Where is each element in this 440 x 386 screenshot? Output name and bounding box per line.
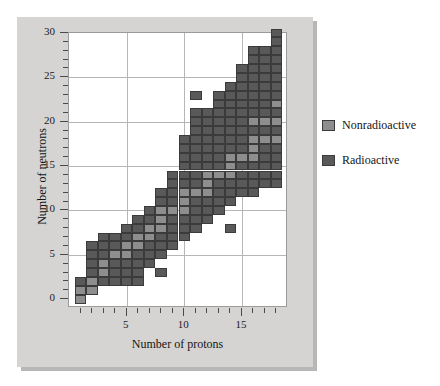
nuclide-cell (248, 144, 260, 153)
nuclide-cell (179, 206, 191, 215)
nuclide-cell (271, 37, 283, 46)
nuclide-cell (213, 126, 225, 135)
nuclide-cell (271, 64, 283, 73)
x-axis-minor-tick (229, 308, 230, 313)
nuclide-cell (236, 82, 248, 91)
y-axis-minor-tick (63, 183, 68, 184)
nuclide-cell (190, 179, 202, 188)
y-axis-minor-tick (63, 94, 68, 95)
nuclide-cell (144, 241, 156, 250)
nuclide-cell (202, 215, 214, 224)
nuclide-cell (121, 233, 133, 242)
nuclide-cell (202, 135, 214, 144)
x-axis-tick-label: 10 (172, 319, 194, 330)
nuclide-cell (109, 268, 121, 277)
y-axis-minor-tick (63, 103, 68, 104)
nuclide-cell (179, 215, 191, 224)
nuclide-cell (155, 206, 167, 215)
nuclide-cell (236, 64, 248, 73)
nuclide-cell (75, 277, 87, 286)
nuclide-cell (271, 55, 283, 64)
nuclide-cell (236, 108, 248, 117)
nuclide-cell (259, 153, 271, 162)
nuclide-cell (213, 144, 225, 153)
nuclide-cell (259, 82, 271, 91)
nuclide-cell (167, 215, 179, 224)
nuclide-cell (179, 188, 191, 197)
nuclide-cell (259, 73, 271, 82)
nuclide-cell (225, 179, 237, 188)
nuclide-cell (86, 268, 98, 277)
nuclide-cell (259, 46, 271, 55)
x-axis-major-tick (126, 308, 127, 316)
nuclide-cell (190, 91, 202, 100)
nuclide-cell (179, 233, 191, 242)
nuclide-cell (190, 144, 202, 153)
nuclide-cell (248, 46, 260, 55)
nuclide-cell (225, 117, 237, 126)
x-axis-minor-tick (206, 308, 207, 313)
nuclide-cell (213, 197, 225, 206)
nuclide-cell (225, 197, 237, 206)
nuclide-cell (132, 259, 144, 268)
nuclide-cell (202, 162, 214, 171)
y-axis-minor-tick (63, 67, 68, 68)
x-axis-minor-tick (252, 308, 253, 313)
nuclide-cell (155, 268, 167, 277)
nuclide-cell (132, 268, 144, 277)
nuclide-cell (259, 162, 271, 171)
nuclide-cell (225, 135, 237, 144)
nuclide-cell (109, 241, 121, 250)
y-axis-minor-tick (63, 130, 68, 131)
nuclide-cell (225, 108, 237, 117)
nuclide-cell (259, 171, 271, 180)
nuclide-cell (155, 233, 167, 242)
nuclide-cell (259, 55, 271, 64)
y-axis-minor-tick (63, 263, 68, 264)
nuclide-cell (179, 162, 191, 171)
nuclide-cell (271, 100, 283, 109)
nuclide-cell (271, 144, 283, 153)
nuclide-cell (236, 144, 248, 153)
nuclide-cell (167, 206, 179, 215)
nuclide-cell (98, 250, 110, 259)
x-axis-minor-tick (80, 308, 81, 313)
nuclide-cell (225, 171, 237, 180)
nuclide-cell (132, 215, 144, 224)
plot-area (68, 32, 287, 307)
figure-panel: 051015202530 51015 Number of protons Num… (17, 17, 313, 367)
nuclide-cell (202, 179, 214, 188)
nuclide-cell (225, 162, 237, 171)
nuclide-cell (144, 233, 156, 242)
nuclide-cell (155, 241, 167, 250)
x-axis-minor-tick (172, 308, 173, 313)
nuclide-cell (248, 126, 260, 135)
nuclide-cell (167, 197, 179, 206)
nuclide-cell (155, 250, 167, 259)
nuclide-cell (248, 73, 260, 82)
nuclide-cell (109, 233, 121, 242)
y-axis-major-tick (60, 254, 68, 255)
nuclide-cell (271, 46, 283, 55)
y-axis-minor-tick (63, 112, 68, 113)
nuclide-cell (213, 153, 225, 162)
nuclide-cell (144, 250, 156, 259)
y-axis-tick-label: 25 (29, 70, 55, 81)
nuclide-cell (202, 126, 214, 135)
y-axis-minor-tick (63, 138, 68, 139)
nuclide-cell (248, 135, 260, 144)
y-axis-minor-tick (63, 272, 68, 273)
nuclide-cell (259, 117, 271, 126)
nuclide-cell (236, 188, 248, 197)
nuclide-cell (248, 162, 260, 171)
nuclide-cell (271, 179, 283, 188)
nuclide-cell (213, 188, 225, 197)
nuclide-cell (190, 224, 202, 233)
nuclide-cell (213, 108, 225, 117)
nuclide-cell (248, 153, 260, 162)
x-axis-tick-label: 5 (115, 319, 137, 330)
nuclide-cell (121, 268, 133, 277)
nuclide-cell (271, 126, 283, 135)
nuclide-cell (248, 91, 260, 100)
nuclide-cell (236, 171, 248, 180)
